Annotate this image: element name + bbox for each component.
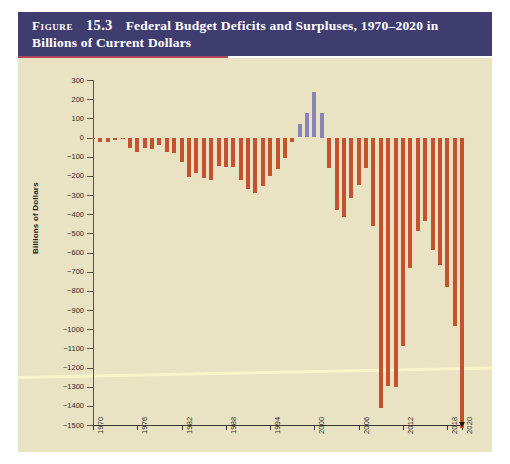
y-axis-tick-label: −100 [18,152,84,161]
x-axis-tick-label: 2000 [317,417,326,435]
bar [276,138,280,169]
bar [224,138,228,168]
x-axis-tick-label: 1976 [140,417,149,435]
bar [143,138,147,148]
x-axis-tick-label: 1982 [185,417,194,435]
y-axis-tick-label: 0 [18,133,84,142]
y-axis-tick [87,176,93,177]
x-axis-tick-label: 1970 [96,417,105,435]
y-axis-tick-label: −1100 [18,344,84,353]
y-axis-tick-label: −600 [18,248,84,257]
y-axis-tick [87,118,93,119]
y-axis-tick [87,157,93,158]
bar [431,138,435,250]
y-axis-tick [87,368,93,369]
x-axis-tick [93,425,94,430]
bar [379,138,383,409]
bar [121,138,125,140]
bar [180,138,184,163]
y-axis-tick [87,406,93,407]
y-axis-tick-label: −900 [18,306,84,315]
x-axis-tick-label: 1988 [229,417,238,435]
bar [261,138,265,187]
x-axis-tick [447,425,448,430]
bar [357,138,361,186]
bar [135,138,139,152]
bar [194,138,198,174]
bar [150,138,154,149]
bar [283,138,287,159]
bar [98,138,102,142]
x-axis-tick-label: 1994 [273,417,282,435]
clipped-value-arrow-icon [459,422,465,427]
bar [268,138,272,177]
x-axis-tick [137,425,138,430]
bar [371,138,375,226]
y-axis-tick [87,348,93,349]
x-axis-tick-label: 2020 [465,417,474,435]
y-axis-tick-label: −1500 [18,421,84,430]
bar [305,113,309,137]
bar [416,138,420,231]
y-axis-tick-label: −800 [18,286,84,295]
x-axis-tick [226,425,227,430]
y-axis-tick-label: −200 [18,171,84,180]
y-axis-tick [87,214,93,215]
x-axis-tick [403,425,404,430]
y-axis-tick [87,80,93,81]
y-axis-tick [87,272,93,273]
bar [401,138,405,346]
bar [187,138,191,178]
x-axis-tick-label: 2012 [406,417,415,435]
bar [106,138,110,142]
x-axis-tick [359,425,360,430]
y-axis-tick-label: 100 [18,114,84,123]
y-axis-tick-label: 200 [18,95,84,104]
y-axis-line [93,80,94,425]
bar [327,138,331,168]
figure-number: 15.3 [86,17,113,33]
chart-plot-area: 3002001000−100−200−300−400−500−600−700−8… [18,58,492,452]
figure-title-line: Figure15.3Federal Budget Deficits and Su… [32,17,482,51]
bar [165,138,169,152]
y-axis-tick-label: −1200 [18,363,84,372]
bar [342,138,346,217]
x-axis-tick-label: 2006 [362,417,371,435]
bar [231,138,235,167]
y-axis-tick [87,291,93,292]
y-axis-tick-label: −300 [18,191,84,200]
bar [445,138,449,287]
y-axis-tick [87,310,93,311]
bar [364,138,368,169]
y-axis-tick [87,329,93,330]
y-axis-tick [87,233,93,234]
bar [312,92,316,137]
bar [217,138,221,167]
bar [91,138,95,140]
bar [453,138,457,327]
y-axis-tick [87,253,93,254]
bar [209,138,213,180]
figure-title-banner: Figure15.3Federal Budget Deficits and Su… [18,12,492,56]
bar [335,138,339,210]
y-axis-tick-label: −1400 [18,401,84,410]
x-axis-tick [314,425,315,430]
figure-container: Figure15.3Federal Budget Deficits and Su… [0,0,510,464]
y-axis-title: Billions of Dollars [31,182,40,254]
bar [172,138,176,153]
bar [239,138,243,180]
bar [460,138,464,429]
bar [290,138,294,142]
bar [423,138,427,222]
bar [157,138,161,146]
bar [246,138,250,190]
bar [320,113,324,138]
bar [349,138,353,199]
y-axis-tick-label: −1300 [18,382,84,391]
bar [394,138,398,387]
y-axis-tick [87,99,93,100]
figure-label: Figure [32,18,73,33]
y-axis-tick-label: −400 [18,210,84,219]
bar [253,138,257,194]
bar [438,138,442,266]
